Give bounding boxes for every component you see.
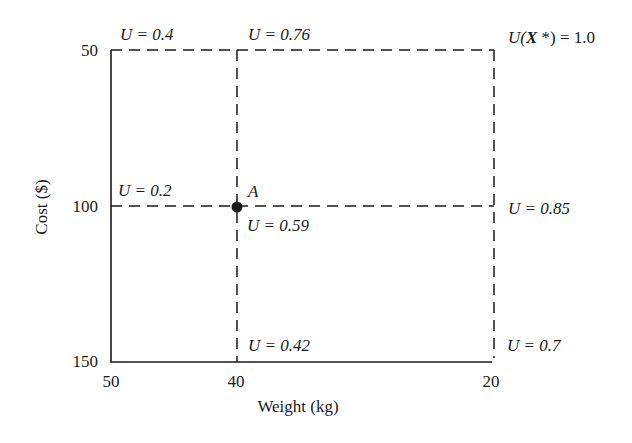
utility-label-point-a: U = 0.59 xyxy=(247,216,309,235)
x-axis-title: Weight (kg) xyxy=(257,397,338,416)
y-tick-100: 100 xyxy=(73,197,99,216)
utility-label-top-left: U = 0.4 xyxy=(120,25,174,44)
utility-label-top-right: U(X *) = 1.0 xyxy=(508,28,595,47)
utility-diagram: A 50 100 150 50 40 20 Weight (kg) Cost (… xyxy=(0,0,632,443)
utility-label-bottom-right: U = 0.7 xyxy=(507,336,562,355)
utility-top-right-var: X xyxy=(525,28,538,47)
utility-label-top-mid: U = 0.76 xyxy=(248,25,310,44)
x-tick-50: 50 xyxy=(103,372,120,391)
point-a-marker xyxy=(232,202,243,213)
utility-label-mid-left: U = 0.2 xyxy=(118,181,172,200)
utility-top-right-suffix: *) = 1.0 xyxy=(537,28,595,47)
point-a-label: A xyxy=(247,182,259,201)
utility-label-mid-right: U = 0.85 xyxy=(508,199,570,218)
y-axis-title: Cost ($) xyxy=(32,179,51,234)
y-tick-50: 50 xyxy=(81,41,98,60)
x-tick-40: 40 xyxy=(228,372,245,391)
y-tick-150: 150 xyxy=(73,352,99,371)
utility-label-bottom-mid: U = 0.42 xyxy=(248,336,310,355)
utility-top-right-prefix: U( xyxy=(508,28,527,47)
x-tick-20: 20 xyxy=(483,372,500,391)
